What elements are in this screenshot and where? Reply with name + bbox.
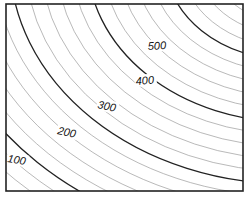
- contour-label: 500: [147, 39, 167, 52]
- contour-lines: [0, 0, 249, 198]
- index-contour: [10, 0, 249, 184]
- minor-contour: [196, 0, 249, 35]
- contour-label: 400: [135, 73, 155, 87]
- contour-map: 500400300200100: [0, 0, 249, 198]
- contour-label: 200: [56, 124, 78, 140]
- contour-labels: 500400300200100: [6, 39, 169, 168]
- minor-contour: [227, 0, 249, 10]
- contour-label: 300: [97, 98, 118, 114]
- contour-label: 100: [7, 152, 28, 167]
